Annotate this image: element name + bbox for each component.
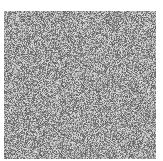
- noise-texture: [4, 11, 156, 159]
